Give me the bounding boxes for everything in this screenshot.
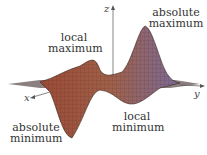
x-axis-label: x [24,92,30,103]
y-axis-label: y [194,88,200,99]
surface-plot-figure: z y x absolute maximum local maximum loc… [0,0,207,155]
local-maximum-label: local maximum [48,32,100,54]
absolute-maximum-label: absolute maximum [148,7,204,29]
z-axis-label: z [104,3,109,14]
absolute-minimum-label: absolute minimum [10,122,62,144]
x-axis [33,92,50,97]
local-minimum-label: local minimum [112,111,162,133]
